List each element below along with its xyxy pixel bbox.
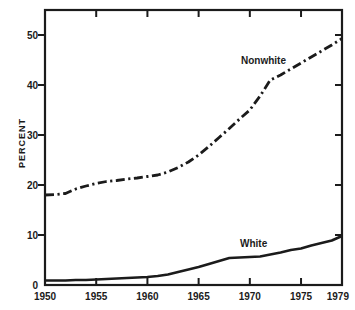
y-tick-label: 0 bbox=[32, 280, 38, 291]
plot-area: 010203040501950195519601965197019751979 bbox=[0, 0, 355, 310]
series-label-nonwhite: Nonwhite bbox=[241, 55, 286, 66]
y-tick-label: 10 bbox=[27, 230, 39, 241]
x-tick-label: 1960 bbox=[136, 291, 159, 302]
x-tick-label: 1975 bbox=[290, 291, 313, 302]
y-tick-label: 50 bbox=[27, 30, 39, 41]
series-label-white: White bbox=[240, 238, 267, 249]
x-tick-label: 1965 bbox=[187, 291, 210, 302]
y-axis-title: PERCENT bbox=[17, 103, 27, 183]
percent-line-chart: 010203040501950195519601965197019751979 … bbox=[0, 0, 355, 310]
y-tick-label: 30 bbox=[27, 130, 39, 141]
series-line-nonwhite bbox=[45, 39, 342, 196]
x-tick-label: 1970 bbox=[239, 291, 262, 302]
x-tick-label: 1950 bbox=[34, 291, 57, 302]
x-tick-label: 1955 bbox=[85, 291, 108, 302]
series-line-white bbox=[45, 236, 342, 281]
plot-frame bbox=[45, 10, 342, 285]
x-tick-label: 1979 bbox=[327, 291, 350, 302]
y-tick-label: 20 bbox=[27, 180, 39, 191]
y-tick-label: 40 bbox=[27, 80, 39, 91]
